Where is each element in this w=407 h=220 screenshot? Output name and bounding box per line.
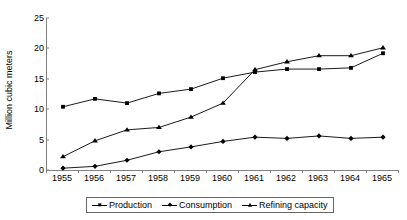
chart-legend: ProductionConsumptionRefining capacity: [86, 197, 334, 213]
data-point-marker: [125, 101, 129, 105]
x-tick-mark: [398, 170, 399, 173]
data-point-marker: [316, 133, 321, 138]
triangle-marker-icon: [242, 200, 257, 210]
y-tick-mark: [46, 109, 49, 110]
data-point-marker: [221, 76, 225, 80]
data-point-marker: [61, 105, 65, 109]
y-tick-label: 15: [16, 74, 44, 83]
legend-marker: [98, 203, 101, 206]
y-axis-ticks: 0510152025: [12, 18, 44, 170]
data-point-marker: [285, 67, 289, 71]
data-point-marker: [317, 67, 321, 71]
x-axis-ticks: 1955195619571958195919601961196219631964…: [46, 173, 398, 189]
x-tick-mark: [270, 170, 271, 173]
data-point-marker: [92, 164, 97, 169]
x-tick-mark: [334, 170, 335, 173]
diamond-marker-icon: [162, 200, 177, 210]
legend-label: Consumption: [179, 200, 232, 210]
x-tick-mark: [366, 170, 367, 173]
x-tick-label: 1962: [276, 173, 296, 183]
x-tick-mark: [302, 170, 303, 173]
legend-label: Production: [109, 200, 152, 210]
x-tick-mark: [78, 170, 79, 173]
data-point-marker: [380, 135, 385, 140]
data-point-marker: [60, 166, 65, 171]
x-tick-mark: [142, 170, 143, 173]
legend-marker: [167, 203, 172, 208]
legend-item-consumption[interactable]: Consumption: [162, 200, 232, 210]
y-tick-label: 0: [16, 166, 44, 175]
plot-area: [46, 18, 399, 171]
data-point-marker: [156, 149, 161, 154]
x-tick-label: 1957: [116, 173, 136, 183]
square-marker-icon: [92, 200, 107, 210]
x-tick-mark: [46, 170, 47, 173]
data-point-marker: [284, 136, 289, 141]
data-point-marker: [157, 91, 161, 95]
data-point-marker: [220, 139, 225, 144]
y-tick-mark: [46, 139, 49, 140]
data-point-marker: [381, 51, 385, 55]
x-tick-label: 1965: [372, 173, 392, 183]
y-tick-label: 5: [16, 135, 44, 144]
legend-item-refining-capacity[interactable]: Refining capacity: [242, 200, 328, 210]
series-consumption: [60, 133, 385, 170]
x-tick-mark: [174, 170, 175, 173]
data-point-marker: [124, 158, 129, 163]
x-tick-mark: [110, 170, 111, 173]
data-point-marker: [252, 135, 257, 140]
x-tick-mark: [206, 170, 207, 173]
data-point-marker: [316, 53, 322, 57]
series-layer: [47, 18, 399, 170]
x-tick-label: 1956: [84, 173, 104, 183]
chart-figure: Million cubic meters 0510152025 19551956…: [0, 0, 407, 220]
y-tick-label: 25: [16, 14, 44, 23]
x-tick-label: 1959: [180, 173, 200, 183]
y-tick-label: 10: [16, 105, 44, 114]
legend-marker: [248, 203, 252, 207]
data-point-marker: [349, 66, 353, 70]
data-point-marker: [189, 87, 193, 91]
data-point-marker: [348, 136, 353, 141]
x-tick-label: 1960: [212, 173, 232, 183]
series-production: [61, 51, 385, 108]
x-tick-label: 1963: [308, 173, 328, 183]
data-point-marker: [188, 144, 193, 149]
y-tick-mark: [46, 18, 49, 19]
x-tick-label: 1955: [52, 173, 72, 183]
legend-item-production[interactable]: Production: [92, 200, 152, 210]
y-tick-mark: [46, 48, 49, 49]
x-tick-label: 1964: [340, 173, 360, 183]
data-point-marker: [93, 97, 97, 101]
x-tick-label: 1958: [148, 173, 168, 183]
legend-label: Refining capacity: [259, 200, 328, 210]
y-tick-label: 20: [16, 44, 44, 53]
x-tick-label: 1961: [244, 173, 264, 183]
data-point-marker: [380, 45, 386, 49]
x-tick-mark: [238, 170, 239, 173]
y-tick-mark: [46, 78, 49, 79]
